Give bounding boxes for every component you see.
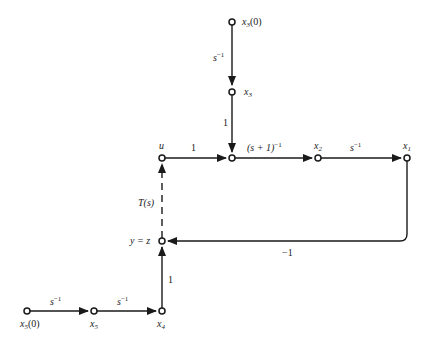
node-x2: [315, 155, 321, 161]
gain-x5-x4: s−1: [117, 295, 129, 307]
gain-x2-x1: s−1: [350, 141, 362, 153]
gain-x5_0-x5: s−1: [50, 295, 62, 307]
node-x1: [404, 155, 410, 161]
gain-x3-junction: 1: [223, 117, 228, 128]
node-u: [159, 155, 165, 161]
node-x5_0: [24, 308, 30, 314]
gain-x3_0-x3: s−1: [213, 51, 225, 63]
label-x3_0: x3(0): [241, 16, 262, 29]
node-x4: [159, 308, 165, 314]
node-x3: [229, 89, 235, 95]
gain-u-junction: 1: [191, 142, 196, 153]
label-x3: x3: [243, 86, 252, 99]
label-u: u: [159, 140, 164, 151]
label-yz: y = z: [129, 235, 150, 246]
label-x2: x2: [313, 140, 322, 153]
gain-x1-yz: −1: [282, 247, 293, 258]
label-x4: x4: [156, 318, 165, 331]
label-x5_0: x5(0): [19, 318, 40, 331]
edge-x1-to-yz: [168, 161, 407, 241]
gain-yz-u: T(s): [138, 197, 155, 209]
edge-yz-to-u: [158, 163, 166, 238]
node-yz: [159, 238, 165, 244]
label-x5: x5: [89, 318, 98, 331]
node-x5: [91, 308, 97, 314]
gain-x4-yz: 1: [168, 274, 173, 285]
node-x3_0: [229, 19, 235, 25]
label-x1: x1: [402, 140, 411, 153]
node-junction: [229, 155, 235, 161]
gain-junction-x2: (s + 1)−1: [247, 141, 282, 154]
signal-flow-diagram: x3(0) x3 u x2 x1 y = z x4 x5 x5(0) s−1 1…: [0, 0, 430, 352]
